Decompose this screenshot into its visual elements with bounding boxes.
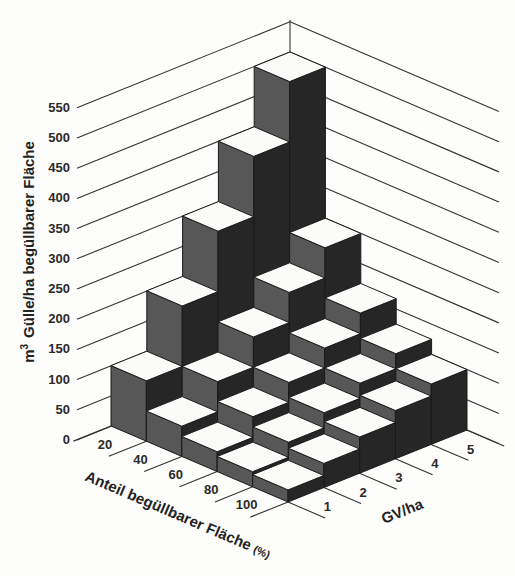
z-tick-label: 150 [48,341,70,356]
z-tick-label: 50 [56,402,70,417]
z-tick-label: 350 [48,221,70,236]
z-tick-label: 250 [48,281,70,296]
z-axis-tick-labels: 050100150200250300350400450500550 [48,100,70,447]
z-tick-label: 300 [48,251,70,266]
z-tick-label: 500 [48,130,70,145]
z-tick-label: 0 [63,432,70,447]
y-tick-label: 4 [431,456,439,471]
3d-bar-chart: 050100150200250300350400450500550 204060… [0,0,515,576]
y-axis-title: GV/ha [379,495,426,527]
x-tick-label: 60 [169,467,183,482]
y-tick-label: 3 [395,470,402,485]
x-tick-label: 100 [236,497,258,512]
x-tick-label: 20 [98,437,112,452]
x-tick-label: 40 [133,452,147,467]
z-axis-title: m3Gülle/ha begüllbarer Fläche [19,141,37,363]
z-tick-label: 400 [48,190,70,205]
bars [111,52,467,502]
y-tick-label: 1 [324,499,331,514]
y-tick-label: 5 [467,442,474,457]
y-tick-line [288,502,325,518]
z-tick-label: 550 [48,100,70,115]
z-tick-label: 100 [48,372,70,387]
z-tick-label: 200 [48,311,70,326]
z-tick-label: 450 [48,160,70,175]
y-tick-label: 2 [360,485,367,500]
x-tick-label: 80 [204,482,218,497]
